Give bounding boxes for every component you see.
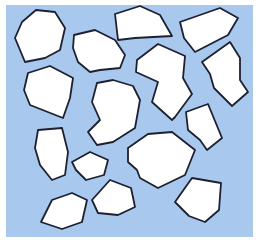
puzzle-canvas	[0, 0, 263, 240]
